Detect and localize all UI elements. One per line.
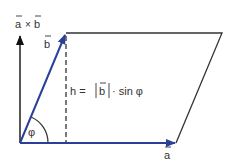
vector-b-label: b [44,36,51,50]
svg-text:b: b [44,38,50,50]
formula-b: b [99,85,105,97]
svg-text:a: a [164,149,171,161]
vector-a-label: a [164,147,171,161]
formula-sin: · sin φ [112,85,143,97]
angle-phi-label: φ [28,126,35,138]
parallelogram-diagram: a × b b a h = b · sin φ φ [0,0,235,168]
formula-h-prefix: h = [70,85,86,97]
height-formula: h = b · sin φ [70,83,143,98]
cross-b-letter: b [34,18,40,30]
parallelogram-outline [66,33,222,143]
cross-product-label: a × b [15,16,41,30]
cross-times-symbol: × [25,19,31,30]
cross-a-letter: a [15,18,22,30]
